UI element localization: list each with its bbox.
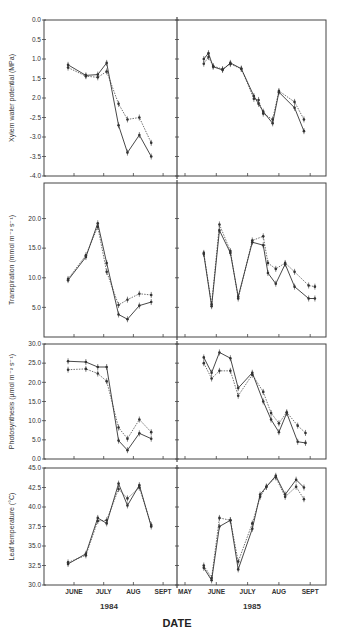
data-point [262,391,265,394]
data-point [67,368,70,371]
series-line-solid-1984 [68,484,151,564]
y-axis-title: Photosynthesis (µmol m⁻² s⁻¹) [8,354,16,449]
data-point [285,411,288,414]
y-axis-title: Xylem water potential (MPa) [8,54,16,142]
data-point [202,564,205,567]
data-point [150,524,153,527]
data-point [278,431,281,434]
y-tick-label: 35.0 [28,542,41,549]
figure: 0.00.51.01.52.0-2.5-3.0-3.5-4.0Xylem wat… [0,0,341,634]
data-point [117,124,120,127]
data-point [138,292,141,295]
data-point [278,90,281,93]
data-point [105,271,108,274]
data-point [210,303,213,306]
data-point [126,437,129,440]
month-tick-label: JULY [240,588,257,595]
data-point [126,318,129,321]
data-point [138,432,141,435]
data-point [304,442,307,445]
data-point [150,155,153,158]
panel-photosynthesis: 0.05.010.015.020.025.030.0Photosynthesis… [8,340,326,462]
data-point [262,112,265,115]
series-line-dashed-1985 [204,477,304,578]
data-point [229,357,232,360]
data-point [303,130,306,133]
data-point [96,372,99,375]
y-tick-label: 15.0 [28,398,41,405]
data-point [303,498,306,501]
y-tick-label: -3.0 [30,133,42,140]
data-point [67,561,70,564]
year-label-1984: 1984 [100,602,118,611]
y-tick-label: 2.0 [32,94,41,101]
data-point [274,476,277,479]
month-tick-label: MAY [178,588,193,595]
data-point [117,488,120,491]
data-point [85,254,88,257]
y-tick-label: 45.0 [28,464,41,471]
y-tick-label: 0.0 [32,455,41,462]
data-point [271,118,274,121]
data-point [229,250,232,253]
y-tick-label: -2.5 [30,114,42,121]
data-point [251,528,254,531]
data-point [229,370,232,373]
data-point [96,520,99,523]
data-point [307,297,310,300]
data-point [251,373,254,376]
data-point [237,297,240,300]
month-tick-label: JULY [96,588,113,595]
panel-leaf_temperature: 30.032.535.037.540.042.545.0Leaf tempera… [8,464,326,588]
month-tick-label: SEPT [155,588,172,595]
data-point [314,297,317,300]
data-point [138,486,141,489]
data-point [251,239,254,242]
data-point [126,497,129,500]
series-line-solid-1985 [204,476,304,581]
data-point [229,63,232,66]
data-point [202,62,205,65]
data-point [262,400,265,403]
data-point [150,437,153,440]
data-point [105,262,108,265]
data-point [96,366,99,369]
series-line-solid-1984 [68,63,151,157]
month-tick-label: AUG [272,588,286,595]
data-point [138,116,141,119]
data-point [296,424,299,427]
panel-xylem: 0.00.51.01.52.0-2.5-3.0-3.5-4.0Xylem wat… [8,16,326,179]
data-point [210,377,213,380]
data-point [85,75,88,78]
data-point [295,485,298,488]
data-point [218,370,221,373]
plot-panels: 0.00.51.01.52.0-2.5-3.0-3.5-4.0Xylem wat… [8,16,326,588]
y-tick-label: 1.5 [32,75,41,82]
data-point [270,418,273,421]
data-point [262,244,265,247]
panel-frame [44,468,326,585]
y-tick-label: 40.0 [28,503,41,510]
month-tick-label: JUNE [65,588,83,595]
data-point [218,351,221,354]
data-point [237,568,240,571]
y-tick-label: 20.0 [28,379,41,386]
data-point [293,101,296,104]
month-tick-label: AUG [126,588,140,595]
data-point [274,268,277,271]
y-tick-label: 15.0 [28,244,41,251]
data-point [105,62,108,65]
data-point [257,99,260,102]
y-tick-label: 5.0 [32,304,41,311]
data-point [138,134,141,137]
data-point [138,418,141,421]
data-point [117,304,120,307]
series-line-dashed-1985 [204,224,315,304]
data-point [207,56,210,59]
data-point [237,387,240,390]
data-point [67,66,70,69]
data-point [126,118,129,121]
data-point [150,301,153,304]
y-tick-label: 30.0 [28,340,41,347]
year-label-1985: 1985 [243,602,261,611]
